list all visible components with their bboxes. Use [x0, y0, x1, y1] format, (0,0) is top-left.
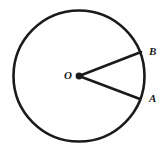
label-point-a: A — [149, 93, 156, 104]
geometry-canvas — [0, 0, 166, 152]
label-center-o: O — [64, 70, 72, 81]
radius-segment-oa — [79, 76, 140, 99]
center-point-dot — [76, 73, 83, 80]
radius-segment-ob — [79, 52, 141, 76]
circle-diagram: O B A — [0, 0, 166, 152]
label-point-b: B — [149, 46, 156, 57]
